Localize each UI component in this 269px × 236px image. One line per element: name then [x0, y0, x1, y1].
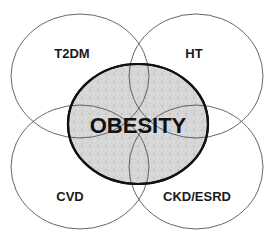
- label-t2dm: T2DM: [54, 46, 89, 61]
- label-ckd-esrd: CKD/ESRD: [163, 189, 231, 204]
- label-obesity: OBESITY: [90, 113, 187, 138]
- venn-diagram: T2DM HT CVD CKD/ESRD OBESITY: [0, 0, 269, 236]
- label-ht: HT: [185, 46, 202, 61]
- label-cvd: CVD: [56, 189, 83, 204]
